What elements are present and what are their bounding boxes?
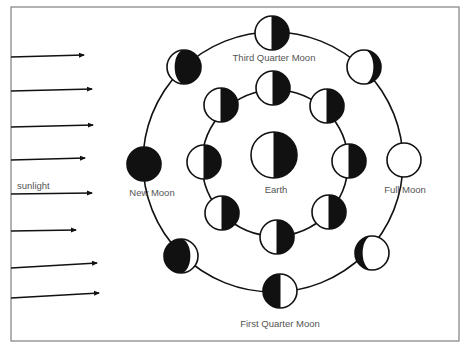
waning-gibbous-moon-icon [347,50,381,84]
waxing-gibbous-moon-icon [355,236,389,270]
sunlight-arrow [11,55,84,57]
new-moon-label: New Moon [129,187,174,198]
earth-label: Earth [265,184,288,195]
inner-moon-icon [312,195,346,229]
inner-moon-icon [256,71,290,105]
waning-crescent-moon-icon [167,50,201,84]
sunlight-arrow [11,89,92,91]
sunlight-arrows [11,55,99,298]
earth-icon [251,132,297,178]
sunlight-arrow [11,125,93,127]
first-quarter-moon-icon [263,274,297,308]
full-moon-icon [387,143,421,177]
sunlight-arrow [11,230,76,231]
third-quarter-moon-icon [255,16,289,50]
sunlight-arrow [11,158,85,160]
waxing-crescent-moon-icon [164,239,198,273]
inner-moon-icon [260,220,294,254]
sunlight-label: sunlight [17,180,50,191]
inner-moon-icon [205,196,239,230]
moon-phases-diagram: Third Quarter Moon First Quarter Moon Ne… [0,0,467,349]
inner-moon-icon [310,89,344,123]
first-quarter-label: First Quarter Moon [240,318,320,329]
sunlight-arrow [11,293,99,298]
earth-globe [251,132,297,178]
sunlight-arrow [11,263,97,268]
new-moon-icon [127,147,161,181]
inner-moon-icon [204,88,238,122]
sunlight-arrow [11,193,92,194]
third-quarter-label: Third Quarter Moon [233,52,316,63]
inner-moon-icon [332,144,366,178]
full-moon-label: Full Moon [384,184,426,195]
inner-moon-icon [187,145,221,179]
